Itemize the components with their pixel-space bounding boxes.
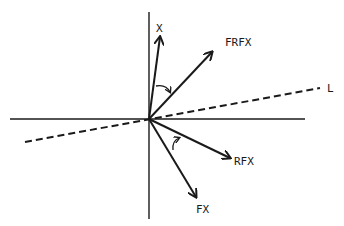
label-fx: FX <box>196 203 210 216</box>
label-frfx: FRFX <box>225 36 252 49</box>
rotation-arrow-lower <box>173 138 179 150</box>
vector-x <box>149 37 160 119</box>
label-x: X <box>156 22 163 35</box>
label-l: L <box>327 82 334 95</box>
rotation-arrow-upper <box>156 86 170 92</box>
reflection-diagram: X FRFX RFX FX L <box>0 0 344 226</box>
dashed-line-l <box>25 88 320 142</box>
label-rfx: RFX <box>234 155 254 168</box>
